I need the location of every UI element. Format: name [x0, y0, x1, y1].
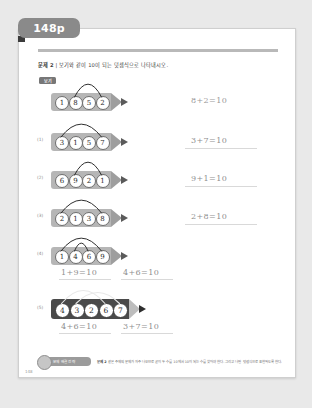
- instruction-separator: |: [56, 62, 58, 68]
- arc: [61, 200, 102, 213]
- footer-badge: 문제 해결 전략: [41, 357, 91, 366]
- pencil-graphic: 3157: [51, 133, 131, 151]
- instruction-text: 보기와 같이 10이 되는 덧셈식으로 나타내시오.: [59, 62, 168, 68]
- answer-text[interactable]: 4+6=10: [61, 322, 97, 331]
- answer-line: [185, 148, 257, 149]
- answer-line: [185, 186, 257, 187]
- header-rule: [38, 49, 278, 52]
- teacher-icon: [37, 355, 52, 370]
- row-marker: (4): [37, 251, 43, 256]
- pair-arcs: [51, 122, 133, 154]
- answer-line: [59, 333, 111, 334]
- row-marker: (3): [37, 213, 43, 218]
- worksheet-page: 148p 문제 2 | 보기와 같이 10이 되는 덧셈식으로 나타내시오. 보…: [0, 0, 312, 408]
- footer-note-label: 문제 2: [97, 360, 107, 364]
- arc: [75, 84, 102, 97]
- row-marker: (2): [37, 175, 43, 180]
- instruction-line: 문제 2 | 보기와 같이 10이 되는 덧셈식으로 나타내시오.: [38, 61, 168, 68]
- row-marker: (5): [37, 305, 43, 310]
- pair-arcs: [51, 236, 133, 268]
- footer-badge-label: 문제 해결 전략: [53, 359, 75, 364]
- answer-text[interactable]: 4+6=10: [123, 268, 159, 277]
- page-number: 148: [25, 369, 33, 374]
- answer-text[interactable]: 2+8=10: [191, 212, 227, 221]
- pair-arcs: [51, 82, 133, 114]
- pencil-graphic: 1469: [51, 247, 131, 265]
- pencil-graphic: 6921: [51, 171, 131, 189]
- answer-text[interactable]: 9+1=10: [191, 174, 227, 183]
- arc: [61, 124, 102, 137]
- instruction-number: 문제 2: [38, 62, 54, 68]
- footer-note-text: 같은 주제의 문제가 자주 나오므로 굳이 두 수를 10에서 10이 되는 수…: [108, 360, 282, 364]
- page-tab[interactable]: 148p: [18, 18, 80, 38]
- pair-arcs: [51, 288, 151, 322]
- answer-text[interactable]: 3+7=10: [123, 322, 159, 331]
- answer-text[interactable]: 3+7=10: [191, 136, 227, 145]
- answer-line: [121, 279, 173, 280]
- answer-text: 8+2=10: [191, 96, 227, 105]
- arc: [75, 243, 89, 251]
- pencil-graphic: 2138: [51, 209, 131, 227]
- answer-text[interactable]: 1+9=10: [61, 268, 97, 277]
- answer-line: [185, 224, 257, 225]
- footer-note: 문제 2 같은 주제의 문제가 자주 나오므로 굳이 두 수를 10에서 10이…: [97, 359, 282, 364]
- arc: [61, 238, 102, 251]
- page-tab-label: 148p: [33, 22, 65, 35]
- pencil-graphic: 43267: [51, 299, 149, 319]
- pencil-graphic: 1852: [51, 93, 131, 111]
- answer-line: [121, 333, 173, 334]
- arc: [76, 293, 120, 304]
- answer-line: [59, 279, 111, 280]
- pair-arcs: [51, 198, 133, 230]
- paper-sheet: 문제 2 | 보기와 같이 10이 되는 덧셈식으로 나타내시오. 보기 185…: [18, 28, 296, 378]
- pair-arcs: [51, 160, 133, 192]
- row-marker: (1): [37, 137, 43, 142]
- arc: [75, 162, 102, 175]
